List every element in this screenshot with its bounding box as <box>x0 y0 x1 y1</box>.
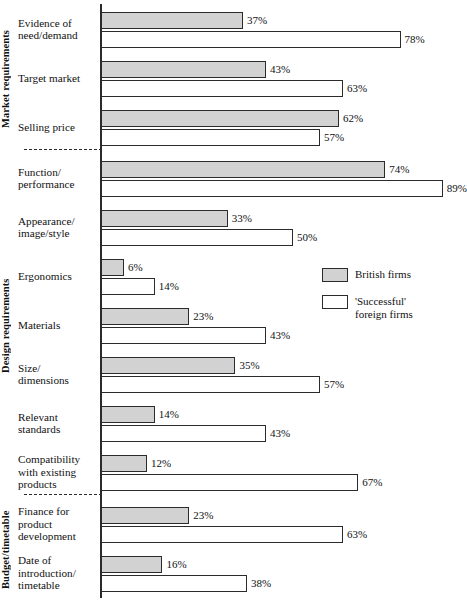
bar-foreign <box>101 229 293 246</box>
bar-foreign <box>101 278 155 295</box>
bar-value-label: 23% <box>193 308 213 325</box>
bar-british <box>101 12 243 29</box>
bar-value-label: 62% <box>343 110 363 127</box>
category-label: Evidence of need/demand <box>18 17 98 42</box>
category-label: Materials <box>18 319 98 331</box>
legend-item: 'Successful' foreign firms <box>322 295 413 320</box>
bar-value-label: 33% <box>232 210 252 227</box>
category-label: Target market <box>18 72 98 84</box>
bar-british <box>101 110 339 127</box>
legend-label: British firms <box>355 268 411 281</box>
bar-british <box>101 455 147 472</box>
category-label: Appearance/ image/style <box>18 215 98 240</box>
bar-british <box>101 556 162 573</box>
chart-legend: British firms'Successful' foreign firms <box>322 268 413 333</box>
bar-foreign <box>101 129 320 146</box>
bar-foreign <box>101 327 266 344</box>
bar-foreign <box>101 376 320 393</box>
category-label: Size/ dimensions <box>18 362 98 387</box>
bar-british <box>101 357 235 374</box>
bar-british <box>101 507 189 524</box>
bar-foreign <box>101 526 343 543</box>
bar-value-label: 35% <box>239 357 259 374</box>
bar-foreign <box>101 474 358 491</box>
bar-british <box>101 161 385 178</box>
bar-british <box>101 259 124 276</box>
bar-value-label: 16% <box>166 556 186 573</box>
category-label: Function/ performance <box>18 166 98 191</box>
category-label: Finance for product development <box>18 505 98 542</box>
bar-value-label: 37% <box>247 12 267 29</box>
bar-british <box>101 210 228 227</box>
bar-value-label: 67% <box>362 474 382 491</box>
bar-value-label: 43% <box>270 61 290 78</box>
bar-value-label: 63% <box>347 526 367 543</box>
group-label: Budget/timetable <box>0 507 11 592</box>
group-separator <box>24 149 102 150</box>
bar-value-label: 6% <box>128 259 143 276</box>
bar-foreign <box>101 425 266 442</box>
legend-item: British firms <box>322 268 413 282</box>
legend-label: 'Successful' foreign firms <box>355 295 413 320</box>
bar-value-label: 43% <box>270 327 290 344</box>
category-label: Relevant standards <box>18 411 98 436</box>
group-separator <box>24 494 102 495</box>
bar-foreign <box>101 180 443 197</box>
bar-value-label: 78% <box>405 31 425 48</box>
bar-value-label: 12% <box>151 455 171 472</box>
bar-value-label: 38% <box>251 575 271 592</box>
bar-value-label: 57% <box>324 129 344 146</box>
bar-british <box>101 308 189 325</box>
bar-value-label: 43% <box>270 425 290 442</box>
category-label: Compatibility with existing products <box>18 453 98 490</box>
bar-value-label: 74% <box>389 161 409 178</box>
bar-value-label: 57% <box>324 376 344 393</box>
bar-value-label: 50% <box>297 229 317 246</box>
bar-british <box>101 406 155 423</box>
bar-foreign <box>101 80 343 97</box>
bar-value-label: 63% <box>347 80 367 97</box>
category-label: Ergonomics <box>18 270 98 282</box>
bar-foreign <box>101 31 401 48</box>
category-label: Date of introduction/ timetable <box>18 554 98 591</box>
legend-swatch-foreign <box>322 295 348 309</box>
bar-foreign <box>101 575 247 592</box>
bar-british <box>101 61 266 78</box>
category-label: Selling price <box>18 121 98 133</box>
legend-swatch-british <box>322 268 348 282</box>
bar-value-label: 23% <box>193 507 213 524</box>
bar-value-label: 14% <box>159 406 179 423</box>
bar-value-label: 89% <box>447 180 467 197</box>
group-label: Design requirements <box>0 161 11 491</box>
bar-value-label: 14% <box>159 278 179 295</box>
group-label: Market requirements <box>0 12 11 146</box>
